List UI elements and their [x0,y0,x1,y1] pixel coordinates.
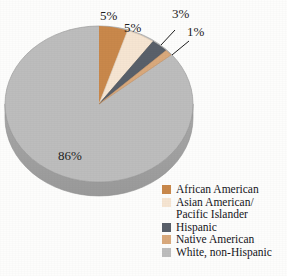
slice-label-white-non-hispanic: 86% [58,148,82,164]
legend-swatch-african-american [162,185,171,194]
legend-swatch-asian-american-pacific-islander [162,198,171,207]
legend-label-hispanic: Hispanic [176,221,217,234]
legend-item-hispanic: Hispanic [162,221,287,234]
slice-label-native-american: 1% [187,24,204,40]
slice-label-asian-american: 5% [124,20,141,36]
legend-swatch-native-american [162,235,171,244]
chart-legend: African American Asian American/ Pacific… [162,183,287,258]
pie-chart-graphic [3,8,195,200]
legend-label-african-american: African American [176,183,259,196]
pie-chart-figure: 5% 5% 3% 1% 86% African American Asian A… [0,0,287,276]
legend-item-african-american: African American [162,183,287,196]
slice-label-hispanic: 3% [172,6,189,22]
legend-label-white-non-hispanic: White, non-Hispanic [176,246,272,259]
legend-item-asian-american-pacific-islander: Asian American/ Pacific Islander [162,196,287,221]
legend-label-asian-american-pacific-islander: Asian American/ Pacific Islander [176,196,254,221]
slice-label-african-american: 5% [100,8,117,24]
legend-swatch-white-non-hispanic [162,248,171,257]
legend-item-white-non-hispanic: White, non-Hispanic [162,246,287,259]
legend-item-native-american: Native American [162,233,287,246]
pie-svg [3,8,195,200]
legend-label-native-american: Native American [176,233,254,246]
cut-off-title-remnant [60,0,230,3]
legend-swatch-hispanic [162,223,171,232]
